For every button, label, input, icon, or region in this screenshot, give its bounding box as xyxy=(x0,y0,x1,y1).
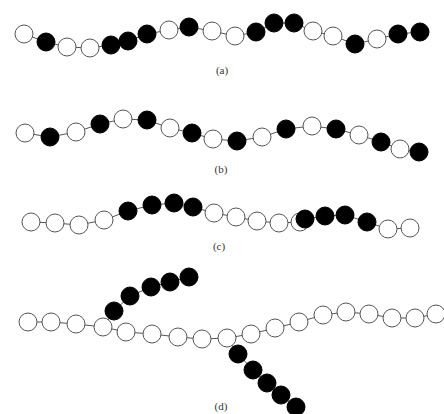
filled-monomer-bead xyxy=(183,124,201,142)
open-monomer-bead xyxy=(161,119,179,137)
filled-monomer-bead xyxy=(143,196,161,214)
graft-monomer-bead xyxy=(142,278,160,296)
graft-monomer-bead xyxy=(161,273,179,291)
open-monomer-bead xyxy=(42,313,60,331)
filled-monomer-bead xyxy=(411,23,429,41)
filled-monomer-bead xyxy=(119,32,137,50)
graft-monomer-bead xyxy=(229,345,247,363)
open-monomer-bead xyxy=(227,208,245,226)
open-monomer-bead xyxy=(67,315,85,333)
open-monomer-bead xyxy=(383,309,401,327)
filled-monomer-bead xyxy=(138,25,156,43)
filled-monomer-bead xyxy=(358,213,376,231)
open-monomer-bead xyxy=(218,329,236,347)
panel-label-b: (b) xyxy=(215,163,228,175)
filled-monomer-bead xyxy=(336,206,354,224)
filled-monomer-bead xyxy=(296,210,314,228)
filled-monomer-bead xyxy=(285,14,303,32)
open-monomer-bead xyxy=(117,323,135,341)
filled-monomer-bead xyxy=(277,120,295,138)
open-monomer-bead xyxy=(391,140,409,158)
open-monomer-bead xyxy=(19,313,37,331)
open-monomer-bead xyxy=(81,39,99,57)
filled-monomer-bead xyxy=(102,36,120,54)
open-monomer-bead xyxy=(401,219,419,237)
filled-monomer-bead xyxy=(180,18,198,36)
filled-monomer-bead xyxy=(346,35,364,53)
filled-monomer-bead xyxy=(372,133,390,151)
open-monomer-bead xyxy=(58,38,76,56)
graft-monomer-bead xyxy=(258,374,276,392)
open-monomer-bead xyxy=(379,220,397,238)
open-monomer-bead xyxy=(143,325,161,343)
filled-monomer-bead xyxy=(165,194,183,212)
open-monomer-bead xyxy=(266,319,284,337)
filled-monomer-bead xyxy=(228,132,246,150)
open-monomer-bead xyxy=(242,325,260,343)
open-monomer-bead xyxy=(95,211,113,229)
chain-diagrams xyxy=(0,0,444,414)
open-monomer-bead xyxy=(67,123,85,141)
filled-monomer-bead xyxy=(184,198,202,216)
open-monomer-bead xyxy=(205,204,223,222)
open-monomer-bead xyxy=(337,303,355,321)
open-monomer-bead xyxy=(94,318,112,336)
open-monomer-bead xyxy=(70,216,88,234)
graft-monomer-bead xyxy=(121,287,139,305)
open-monomer-bead xyxy=(15,25,33,43)
open-monomer-bead xyxy=(204,130,222,148)
filled-monomer-bead xyxy=(37,33,55,51)
open-monomer-bead xyxy=(253,128,271,146)
filled-monomer-bead xyxy=(389,25,407,43)
open-monomer-bead xyxy=(304,22,322,40)
filled-monomer-bead xyxy=(119,202,137,220)
filled-monomer-bead xyxy=(41,128,59,146)
graft-monomer-bead xyxy=(244,361,262,379)
filled-monomer-bead xyxy=(327,120,345,138)
graft-monomer-bead xyxy=(105,302,123,320)
open-monomer-bead xyxy=(160,21,178,39)
open-monomer-bead xyxy=(193,330,211,348)
open-monomer-bead xyxy=(350,126,368,144)
panel-label-d: (d) xyxy=(215,400,228,412)
open-monomer-bead xyxy=(226,27,244,45)
filled-monomer-bead xyxy=(138,111,156,129)
open-monomer-bead xyxy=(324,27,342,45)
open-monomer-bead xyxy=(270,214,288,232)
open-monomer-bead xyxy=(360,305,378,323)
filled-monomer-bead xyxy=(265,14,283,32)
open-monomer-bead xyxy=(303,117,321,135)
graft-monomer-bead xyxy=(287,398,305,414)
filled-monomer-bead xyxy=(410,143,428,161)
open-monomer-bead xyxy=(16,124,34,142)
panel-label-c: (c) xyxy=(213,240,225,252)
open-monomer-bead xyxy=(114,110,132,128)
open-monomer-bead xyxy=(248,212,266,230)
open-monomer-bead xyxy=(427,305,444,323)
panel-label-a: (a) xyxy=(216,64,228,76)
open-monomer-bead xyxy=(406,309,424,327)
open-monomer-bead xyxy=(169,328,187,346)
graft-monomer-bead xyxy=(180,268,198,286)
open-monomer-bead xyxy=(22,213,40,231)
filled-monomer-bead xyxy=(91,115,109,133)
open-monomer-bead xyxy=(46,214,64,232)
copolymer-figure: (a) (b) (c) (d) xyxy=(0,0,444,414)
open-monomer-bead xyxy=(368,30,386,48)
open-monomer-bead xyxy=(314,306,332,324)
filled-monomer-bead xyxy=(247,23,265,41)
graft-monomer-bead xyxy=(272,386,290,404)
filled-monomer-bead xyxy=(316,207,334,225)
open-monomer-bead xyxy=(203,22,221,40)
open-monomer-bead xyxy=(290,313,308,331)
